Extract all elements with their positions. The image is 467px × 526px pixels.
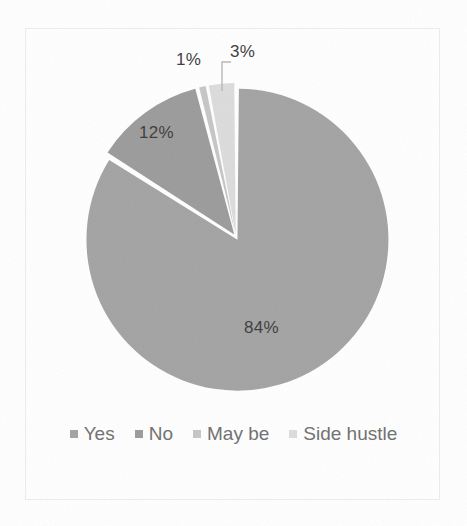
data-label-yes: 84% [244, 319, 279, 336]
chart-frame: 1% 3% 12% 84% Yes No May be Side hustle [25, 28, 440, 500]
legend-item-may-be[interactable]: May be [193, 424, 269, 443]
legend-item-yes[interactable]: Yes [70, 424, 115, 443]
data-label-may-be: 1% [176, 51, 201, 68]
pie-chart-plot-area: 1% 3% 12% 84% Yes No May be Side hustle [26, 29, 439, 499]
chart-legend: Yes No May be Side hustle [26, 424, 441, 443]
legend-swatch-icon-side-hustle [289, 430, 297, 438]
legend-swatch-icon-may-be [193, 430, 201, 438]
data-label-no: 12% [139, 124, 174, 141]
data-label-side-hustle: 3% [230, 43, 255, 60]
legend-item-no[interactable]: No [135, 424, 173, 443]
legend-swatch-icon-no [135, 430, 143, 438]
legend-swatch-icon-yes [70, 430, 78, 438]
legend-label-yes: Yes [84, 424, 115, 443]
legend-item-side-hustle[interactable]: Side hustle [289, 424, 397, 443]
legend-label-may-be: May be [207, 424, 269, 443]
legend-label-no: No [149, 424, 173, 443]
legend-label-side-hustle: Side hustle [303, 424, 397, 443]
